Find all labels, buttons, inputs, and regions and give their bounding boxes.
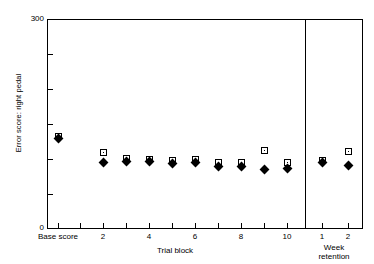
x-tick-8 — [241, 223, 242, 228]
x-tick-week-1 — [322, 223, 323, 228]
y-tick-100 — [48, 159, 53, 160]
x-tick-label-4: 4 — [139, 232, 159, 241]
y-tick-250 — [48, 54, 53, 55]
x-tick-label-10: 10 — [277, 232, 297, 241]
x-tick-1 — [80, 223, 81, 228]
x-tick-9 — [264, 223, 265, 228]
x-axis-title-retention: Week retention — [310, 243, 358, 261]
x-axis-title: Trial block — [130, 246, 220, 255]
data-point-diamond-9 — [260, 165, 270, 175]
y-axis-title: Error score: right pedal — [14, 0, 26, 48]
y-axis-title-text: Error score: right pedal — [14, 48, 23, 178]
x-tick-label-week-2: 2 — [338, 232, 358, 241]
axis-top-line — [47, 19, 363, 20]
data-point-square-9 — [261, 147, 268, 154]
x-tick-3 — [126, 223, 127, 228]
x-tick-label-base-score: Base score — [26, 232, 90, 241]
data-point-diamond-week-2 — [344, 161, 354, 171]
axis-right-line — [362, 19, 363, 229]
chart-figure: 300 0 Error score: right pedal Base scor… — [0, 0, 374, 264]
x-tick-week-2 — [348, 223, 349, 228]
x-tick-label-week-1: 1 — [312, 232, 332, 241]
x-tick-label-8: 8 — [231, 232, 251, 241]
x-tick-label-6: 6 — [185, 232, 205, 241]
x-tick-5 — [172, 223, 173, 228]
x-tick-2 — [103, 223, 104, 228]
y-tick-150 — [48, 124, 53, 125]
data-point-square-2 — [100, 149, 107, 156]
x-tick-7 — [218, 223, 219, 228]
y-tick-200 — [48, 89, 53, 90]
y-tick-50 — [48, 194, 53, 195]
axis-x-line — [47, 228, 363, 229]
x-tick-label-2: 2 — [93, 232, 113, 241]
x-axis-title-retention-line2: retention — [318, 252, 349, 261]
data-point-diamond-2 — [99, 158, 109, 168]
x-tick-6 — [195, 223, 196, 228]
x-tick-base — [58, 223, 59, 228]
y-tick-label-0: 0 — [18, 223, 44, 232]
panel-separator-line — [305, 19, 306, 229]
x-axis-title-retention-line1: Week — [324, 243, 344, 252]
x-tick-10 — [287, 223, 288, 228]
data-point-square-week-2 — [345, 148, 352, 155]
x-tick-4 — [149, 223, 150, 228]
